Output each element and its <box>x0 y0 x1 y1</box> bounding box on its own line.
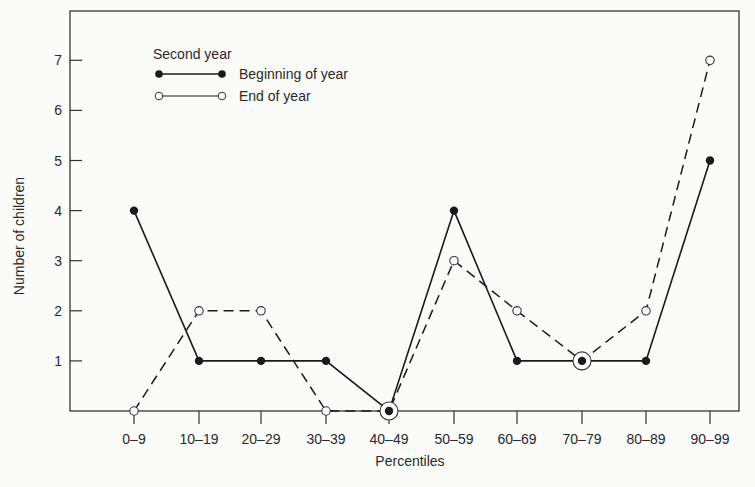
y-tick-label: 7 <box>54 52 62 68</box>
filled-circle-icon <box>155 70 163 78</box>
filled-circle-icon <box>578 357 586 365</box>
filled-circle-icon <box>450 206 458 214</box>
filled-circle-icon <box>218 70 226 78</box>
y-tick-label: 4 <box>54 203 62 219</box>
x-tick-label: 50–59 <box>435 431 474 447</box>
open-circle-icon <box>195 307 203 315</box>
series-end-of-year-line <box>134 60 710 411</box>
filled-circle-icon <box>706 156 714 164</box>
open-circle-icon <box>706 56 714 64</box>
open-circle-icon <box>155 92 163 100</box>
open-circle-icon <box>257 307 265 315</box>
filled-circle-icon <box>195 357 203 365</box>
legend-title: Second year <box>153 46 232 62</box>
x-tick-label: 0–9 <box>122 431 146 447</box>
filled-circle-icon <box>322 357 330 365</box>
series-beginning-of-year-line <box>134 161 710 412</box>
open-circle-icon <box>130 407 138 415</box>
y-tick-label: 6 <box>54 102 62 118</box>
series-group <box>130 56 714 420</box>
filled-circle-icon <box>385 407 393 415</box>
y-tick-label: 5 <box>54 153 62 169</box>
x-tick-label: 30–39 <box>307 431 346 447</box>
x-tick-label: 90–99 <box>691 431 730 447</box>
x-tick-label: 60–69 <box>498 431 537 447</box>
x-tick-label: 20–29 <box>242 431 281 447</box>
open-circle-icon <box>450 257 458 265</box>
legend-entry-beginning: Beginning of year <box>155 66 348 82</box>
x-tick-label: 10–19 <box>180 431 219 447</box>
y-tick-label: 1 <box>54 353 62 369</box>
y-axis: 1234567 <box>54 52 82 369</box>
y-tick-label: 3 <box>54 253 62 269</box>
svg-text:Beginning of year: Beginning of year <box>239 66 348 82</box>
filled-circle-icon <box>130 206 138 214</box>
y-tick-label: 2 <box>54 303 62 319</box>
svg-text:End of year: End of year <box>239 88 311 104</box>
x-axis: 0–910–1920–2930–3940–4950–5960–6970–7980… <box>122 411 729 447</box>
open-circle-icon <box>218 92 226 100</box>
filled-circle-icon <box>513 357 521 365</box>
legend-entry-end: End of year <box>155 88 311 104</box>
y-axis-label: Number of children <box>11 177 27 295</box>
legend: Second year Beginning of year End of yea… <box>153 46 348 104</box>
x-tick-label: 40–49 <box>370 431 409 447</box>
line-chart: 1234567 0–910–1920–2930–3940–4950–5960–6… <box>0 0 755 487</box>
x-tick-label: 80–89 <box>627 431 666 447</box>
plot-frame <box>70 11 739 411</box>
open-circle-icon <box>322 407 330 415</box>
x-axis-label: Percentiles <box>375 453 444 469</box>
open-circle-icon <box>513 307 521 315</box>
x-tick-label: 70–79 <box>563 431 602 447</box>
open-circle-icon <box>642 307 650 315</box>
filled-circle-icon <box>642 357 650 365</box>
filled-circle-icon <box>257 357 265 365</box>
